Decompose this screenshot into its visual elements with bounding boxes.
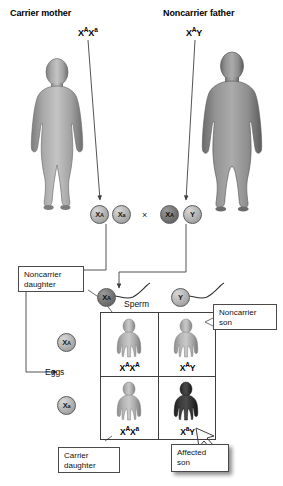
tr-base2: Y (190, 363, 195, 373)
punnett-cell-top-left-genotype: XAXA (101, 363, 158, 373)
callout-noncarrier-daughter: Noncarrier daughter (18, 266, 84, 292)
father-allele2-base: Y (196, 28, 202, 38)
punnett-square-grid: XAXA XAY XAXa XaY (100, 312, 216, 440)
punnett-cell-bottom-right-genotype: XaY (159, 427, 216, 437)
callout-noncarrier-daughter-line2: daughter (24, 280, 79, 290)
punnett-cell-top-left: XAXA (101, 313, 158, 376)
punnett-cell-top-left-figure-slot (101, 316, 158, 358)
father-body-illustration (202, 52, 261, 212)
sperm-axis-label: Sperm (124, 299, 149, 309)
gamete-mother-xA: XA (90, 205, 109, 224)
callout-noncarrier-daughter-line1: Noncarrier (24, 270, 79, 280)
callout-affected-son-line1: Affected (177, 448, 224, 458)
callout-carrier-daughter: Carrier daughter (58, 447, 120, 473)
gamete-mother-xa: Xa (112, 205, 131, 224)
punnett-cell-bottom-right: XaY (159, 377, 216, 440)
sperm-head-xA: XA (97, 288, 116, 307)
punnett-cell-bottom-left-figure-slot (101, 380, 158, 422)
callout-noncarrier-son-line2: son (219, 318, 272, 328)
cross-symbol: × (142, 210, 147, 220)
gamete-father-xA: XA (160, 205, 179, 224)
punnett-cell-bottom-left: XAXa (101, 377, 158, 440)
sperm-head-y: Y (171, 288, 190, 307)
callout-affected-son-line2: son (177, 458, 224, 468)
mother-title-label: Carrier mother (10, 8, 71, 18)
callout-affected-son: Affected son (171, 444, 229, 472)
gamete-father-y: Y (183, 205, 202, 224)
bl-sup2: a (136, 425, 139, 432)
mother-allele2-sup: a (94, 26, 97, 33)
gamete-father-y-base: Y (190, 210, 195, 219)
egg-xA: XA (57, 333, 76, 352)
egg-xa: Xa (57, 396, 76, 415)
punnett-cell-top-right: XAY (159, 313, 216, 376)
callout-carrier-daughter-line2: daughter (64, 461, 115, 471)
br-base2: Y (189, 427, 194, 437)
punnett-cell-top-right-figure-slot (159, 316, 216, 358)
callout-noncarrier-son-line1: Noncarrier (219, 308, 272, 318)
punnett-cell-bottom-left-genotype: XAXa (101, 427, 158, 437)
mother-genotype-label: XAXa (78, 28, 98, 38)
mother-body-illustration (31, 59, 82, 210)
punnett-cell-bottom-right-figure-slot (159, 380, 216, 422)
punnett-cell-top-right-genotype: XAY (159, 363, 216, 373)
punnett-square-figure: Carrier mother Noncarrier father XAXa XA… (0, 0, 283, 486)
callout-carrier-daughter-line1: Carrier (64, 451, 115, 461)
tl-sup2: A (135, 361, 140, 368)
father-genotype-label: XAY (186, 28, 202, 38)
callout-noncarrier-son: Noncarrier son (213, 304, 277, 330)
father-title-label: Noncarrier father (163, 8, 234, 18)
sperm-head-y-base: Y (178, 293, 183, 302)
eggs-axis-label: Eggs (45, 367, 64, 377)
